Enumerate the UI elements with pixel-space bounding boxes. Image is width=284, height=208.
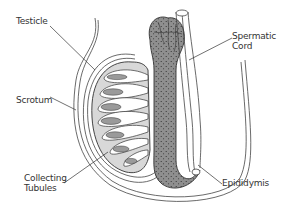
label-epididymis: Epididymis [222, 178, 269, 188]
testicle-diagram: Testicle Scrotum Collecting Tubules Sper… [0, 0, 284, 208]
label-scrotum: Scrotum [16, 95, 52, 105]
label-testicle: Testicle [16, 16, 48, 26]
label-spermatic-cord-2: Cord [232, 41, 252, 51]
label-collecting-tubules-1: Collecting [24, 173, 67, 183]
label-spermatic-cord-1: Spermatic [232, 31, 276, 41]
epididymis [149, 17, 200, 188]
label-collecting-tubules-2: Tubules [24, 183, 57, 193]
